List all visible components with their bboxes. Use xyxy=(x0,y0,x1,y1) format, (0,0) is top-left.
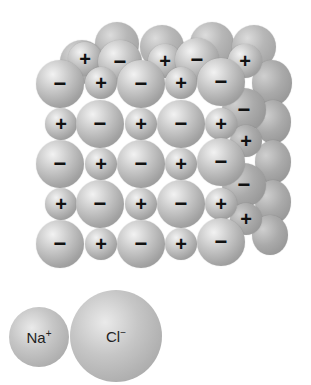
front-sodium-ion: + xyxy=(45,108,77,140)
sodium-label: Na+ xyxy=(26,328,51,346)
front-sodium-ion: + xyxy=(165,228,197,260)
front-sodium-ion: + xyxy=(85,148,117,180)
front-sodium-ion: + xyxy=(205,188,237,220)
front-chloride-ion: − xyxy=(197,58,245,106)
front-sodium-ion: + xyxy=(85,67,117,99)
front-sodium-ion: + xyxy=(85,228,117,260)
front-chloride-ion: − xyxy=(157,100,205,148)
front-sodium-ion: + xyxy=(165,148,197,180)
chloride-label: Cl− xyxy=(106,327,126,345)
ion-legend: Na+ Cl− xyxy=(0,285,311,385)
sodium-ion-legend: Na+ xyxy=(9,307,69,367)
front-chloride-ion: − xyxy=(76,100,124,148)
front-chloride-ion: − xyxy=(117,60,165,108)
front-chloride-ion: − xyxy=(36,140,84,188)
front-sodium-ion: + xyxy=(205,108,237,140)
front-sodium-ion: + xyxy=(125,188,157,220)
chloride-ion-legend: Cl− xyxy=(70,290,162,382)
front-chloride-ion: − xyxy=(117,220,165,268)
front-chloride-ion: − xyxy=(117,140,165,188)
nacl-lattice: + − + − + − + − + − + − + − + − + − + − … xyxy=(0,0,311,290)
front-chloride-ion: − xyxy=(197,138,245,186)
front-chloride-ion: − xyxy=(36,220,84,268)
front-chloride-ion: − xyxy=(36,60,84,108)
front-sodium-ion: + xyxy=(125,108,157,140)
front-sodium-ion: + xyxy=(45,188,77,220)
front-sodium-ion: + xyxy=(165,67,197,99)
front-chloride-ion: − xyxy=(157,180,205,228)
front-chloride-ion: − xyxy=(76,180,124,228)
front-chloride-ion: − xyxy=(197,218,245,266)
